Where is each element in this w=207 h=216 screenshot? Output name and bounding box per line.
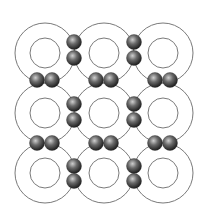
atoms-layer [15, 23, 193, 203]
covalent-lattice-figure [0, 0, 207, 216]
electron [127, 159, 142, 174]
electron [67, 97, 82, 112]
nucleus-ring [30, 158, 60, 188]
bond-pair-horizontal [89, 136, 119, 151]
nucleus-ring [30, 38, 60, 68]
electron [127, 113, 142, 128]
atom-1-0 [15, 83, 75, 143]
electron [67, 35, 82, 50]
electron [127, 51, 142, 66]
electron [163, 136, 178, 151]
electron [30, 136, 45, 151]
atom-2-1 [74, 143, 134, 203]
outer-shell-ring [133, 83, 193, 143]
electron [45, 73, 60, 88]
nucleus-ring [148, 98, 178, 128]
bond-pair-vertical [67, 159, 82, 189]
electron [104, 136, 119, 151]
bond-pair-horizontal [30, 73, 60, 88]
electron [148, 73, 163, 88]
outer-shell-ring [133, 23, 193, 83]
outer-shell-ring [74, 23, 134, 83]
electron [89, 73, 104, 88]
bond-pair-horizontal [89, 73, 119, 88]
nucleus-ring [89, 38, 119, 68]
electron [104, 73, 119, 88]
bond-pair-horizontal [30, 136, 60, 151]
outer-shell-ring [133, 143, 193, 203]
nucleus-ring [148, 38, 178, 68]
electron [148, 136, 163, 151]
nucleus-ring [148, 158, 178, 188]
bond-pair-vertical [127, 159, 142, 189]
outer-shell-ring [74, 143, 134, 203]
atom-0-2 [133, 23, 193, 83]
electron [89, 136, 104, 151]
atom-1-2 [133, 83, 193, 143]
outer-shell-ring [15, 83, 75, 143]
electron [127, 174, 142, 189]
bond-pair-horizontal [148, 136, 178, 151]
electron [127, 97, 142, 112]
electrons-layer [30, 35, 178, 189]
electron [67, 113, 82, 128]
nucleus-ring [89, 98, 119, 128]
electron [127, 35, 142, 50]
outer-shell-ring [15, 143, 75, 203]
atom-2-0 [15, 143, 75, 203]
nucleus-ring [89, 158, 119, 188]
outer-shell-ring [15, 23, 75, 83]
atom-0-0 [15, 23, 75, 83]
outer-shell-ring [74, 83, 134, 143]
electron [163, 73, 178, 88]
electron [45, 136, 60, 151]
bond-pair-horizontal [148, 73, 178, 88]
atom-2-2 [133, 143, 193, 203]
electron [67, 159, 82, 174]
electron [30, 73, 45, 88]
electron [67, 51, 82, 66]
atom-1-1 [74, 83, 134, 143]
atom-0-1 [74, 23, 134, 83]
lattice-diagram [0, 0, 207, 216]
nucleus-ring [30, 98, 60, 128]
electron [67, 174, 82, 189]
